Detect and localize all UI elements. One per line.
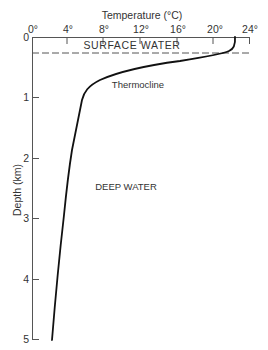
x-tick-label: 12°: [133, 23, 149, 35]
temperature-depth-chart: Temperature (°C) 0° 4° 8° 12° 16° 20° 24…: [0, 0, 268, 350]
x-tick-label: 16°: [170, 23, 186, 35]
y-tick-label: 0: [23, 31, 29, 43]
x-axis-title: Temperature (°C): [102, 9, 183, 21]
x-tick-label: 8°: [99, 23, 109, 35]
x-tick-label: 24°: [242, 23, 258, 35]
y-tick-label: 3: [23, 212, 29, 224]
y-tick-label: 5: [23, 333, 29, 345]
x-tick-labels: 0° 4° 8° 12° 16° 20° 24°: [28, 23, 258, 35]
x-tick-label: 0°: [28, 23, 38, 35]
y-tick-label: 4: [23, 273, 29, 285]
y-tick-labels: 0 1 2 3 4 5: [23, 31, 29, 345]
x-tick-label: 4°: [63, 23, 73, 35]
x-tick-label: 20°: [207, 23, 223, 35]
surface-water-label: SURFACE WATER: [83, 39, 180, 51]
deep-water-label: DEEP WATER: [95, 181, 157, 192]
y-tick-label: 1: [23, 91, 29, 103]
y-tick-label: 2: [23, 152, 29, 164]
thermocline-label: Thermocline: [112, 79, 164, 90]
y-axis-title: Depth (km): [11, 164, 23, 216]
